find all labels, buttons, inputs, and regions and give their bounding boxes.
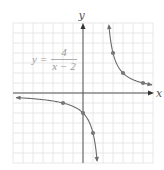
top-end-arrow-icon — [107, 24, 111, 29]
left-branch-curve — [16, 98, 97, 161]
equation-numerator: 4 — [61, 46, 67, 58]
data-point — [141, 81, 145, 85]
left-end-arrow-icon — [16, 96, 21, 100]
data-point — [81, 111, 85, 115]
equation-denominator: x − 2 — [51, 60, 76, 72]
data-point — [121, 71, 125, 75]
y-axis-arrow-icon — [81, 23, 86, 29]
data-point — [91, 131, 95, 135]
data-point — [61, 101, 65, 105]
axes: x y — [13, 9, 163, 163]
right-branch-curve — [109, 26, 152, 85]
y-axis-label: y — [78, 9, 86, 22]
data-point — [111, 51, 115, 55]
x-axis-label: x — [156, 87, 163, 100]
bottom-end-arrow-icon — [95, 157, 99, 162]
equation-label: y = 4 x − 2 — [31, 46, 77, 72]
equation-lhs: y = — [31, 53, 47, 65]
rational-function-graph: x y y = 4 x − 2 — [0, 0, 164, 170]
right-end-arrow-icon — [147, 82, 152, 86]
